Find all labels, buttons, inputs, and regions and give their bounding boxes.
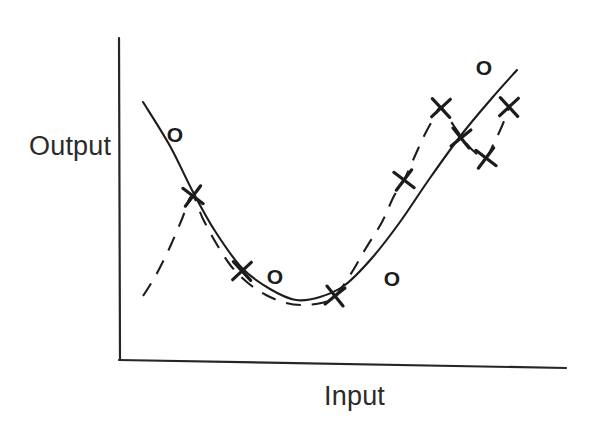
y-axis-line bbox=[119, 38, 120, 360]
marker-o: O bbox=[384, 267, 400, 290]
marker-o: O bbox=[167, 123, 183, 146]
marker-x bbox=[325, 286, 345, 306]
marker-x bbox=[183, 186, 203, 206]
marker-o-glyph: O bbox=[476, 56, 492, 79]
plot-canvas: OOOO bbox=[0, 0, 593, 432]
solid-fit-curve bbox=[143, 70, 517, 300]
marker-x bbox=[394, 170, 414, 190]
marker-o: O bbox=[267, 265, 283, 288]
marker-o: O bbox=[476, 56, 492, 79]
data-markers-group: OOOO bbox=[167, 56, 518, 306]
x-axis-line bbox=[119, 360, 566, 368]
dashed-overfit-curve bbox=[143, 108, 509, 305]
marker-x bbox=[476, 148, 496, 168]
marker-x bbox=[451, 128, 471, 148]
chart-figure: OOOO Output Input bbox=[0, 0, 593, 432]
x-axis-label: Input bbox=[324, 381, 385, 412]
marker-o-glyph: O bbox=[267, 265, 283, 288]
marker-o-glyph: O bbox=[384, 267, 400, 290]
y-axis-label: Output bbox=[29, 131, 111, 162]
marker-x bbox=[500, 98, 519, 117]
marker-x bbox=[432, 99, 451, 118]
marker-o-glyph: O bbox=[167, 123, 183, 146]
